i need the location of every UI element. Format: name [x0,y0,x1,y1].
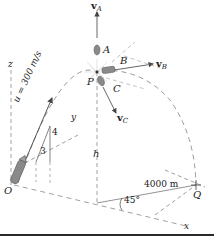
label-angle: 45° [124,196,140,205]
label-slope-rise: 4 [52,128,58,137]
label-x-axis: x [184,222,189,231]
label-o: O [4,186,12,196]
y-axis [25,135,78,163]
label-p: P [87,77,94,87]
angle-arc [120,198,122,210]
projectile-diagram: vA A B vB P C vC h z y x O Q u = 300 m/s… [0,0,214,238]
point-p [96,71,99,74]
label-h: h [93,149,99,159]
label-z-axis: z [8,60,13,69]
label-b: B [120,56,127,66]
label-y-axis: y [71,113,76,122]
label-q: Q [193,190,201,200]
fragment-c [96,75,106,87]
fragment-b [102,66,116,74]
label-slope-run: 3 [40,147,46,156]
trajectory-arc [18,70,196,185]
label-vc: vC [117,113,128,125]
diagram-drawing [0,0,214,238]
label-va: vA [91,1,102,13]
projectile-shell-icon [10,154,29,185]
bottom-rule [0,234,214,236]
q-projection-x [155,185,196,215]
label-vb: vB [156,59,167,71]
label-distance: 4000 m [144,180,178,189]
fragment-a [94,45,100,55]
label-a: A [103,45,110,55]
label-c: C [113,84,121,94]
